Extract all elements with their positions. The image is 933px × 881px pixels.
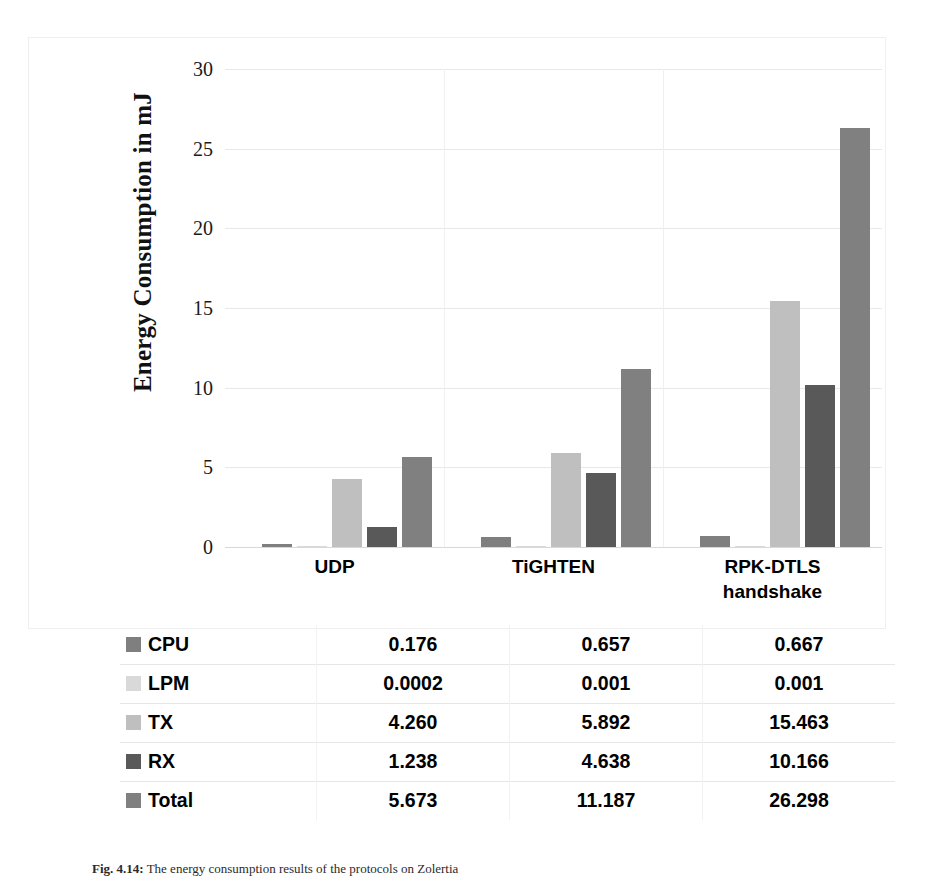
table-cell-tx-tighten: 5.892 <box>510 703 703 742</box>
y-tick-label-20: 20 <box>193 217 213 240</box>
table-cell-tx-udp: 4.260 <box>317 703 510 742</box>
x-axis-label-line: TiGHTEN <box>444 554 663 579</box>
table-row: Total5.67311.18726.298 <box>120 781 895 820</box>
chart-frame: Energy Consumption in mJ 051015202530 UD… <box>28 37 886 629</box>
bar-group-tighten <box>481 69 651 547</box>
gridline-0 <box>225 547 882 548</box>
legend-label: RX <box>148 750 175 772</box>
bar-total-tighten <box>621 369 651 547</box>
table-row: RX1.2384.63810.166 <box>120 742 895 781</box>
category-separator-1 <box>444 69 445 547</box>
x-axis-label-line: handshake <box>663 579 882 604</box>
legend-swatch-rx-icon <box>126 754 141 769</box>
table-row: LPM0.00020.0010.001 <box>120 664 895 703</box>
table-cell-cpu-tighten: 0.657 <box>510 625 703 664</box>
bar-rx-rpk-dtls-handshake <box>805 385 835 547</box>
table-cell-rx-udp: 1.238 <box>317 742 510 781</box>
bar-cpu-rpk-dtls-handshake <box>700 536 730 547</box>
legend-label: CPU <box>148 633 189 655</box>
bar-group-udp <box>262 69 432 547</box>
table-row: CPU0.1760.6570.667 <box>120 625 895 664</box>
data-table: CPU0.1760.6570.667LPM0.00020.0010.001TX4… <box>120 625 895 820</box>
table-cell-total-rpk-dtls-handshake: 26.298 <box>703 781 896 820</box>
bar-total-udp <box>402 457 432 547</box>
table-cell-lpm-tighten: 0.001 <box>510 664 703 703</box>
x-axis-label-line: UDP <box>225 554 444 579</box>
x-axis-label-line: RPK-DTLS <box>663 554 882 579</box>
x-axis-category-labels: UDPTiGHTENRPK-DTLShandshake <box>225 554 882 620</box>
legend-item-lpm: LPM <box>120 664 317 703</box>
bar-rx-tighten <box>586 473 616 547</box>
bar-total-rpk-dtls-handshake <box>840 128 870 547</box>
bar-lpm-tighten <box>516 546 546 547</box>
bar-group-rpk-dtls-handshake <box>700 69 870 547</box>
table-cell-cpu-udp: 0.176 <box>317 625 510 664</box>
caption-text: The energy consumption results of the pr… <box>147 861 459 876</box>
data-table-body: CPU0.1760.6570.667LPM0.00020.0010.001TX4… <box>120 625 895 820</box>
category-separator-2 <box>663 69 664 547</box>
legend-item-tx: TX <box>120 703 317 742</box>
figure-container: Energy Consumption in mJ 051015202530 UD… <box>0 0 933 881</box>
x-axis-label-rpk-dtls-handshake: RPK-DTLShandshake <box>663 554 882 604</box>
bar-cpu-tighten <box>481 537 511 547</box>
legend-swatch-tx-icon <box>126 715 141 730</box>
y-tick-label-10: 10 <box>193 376 213 399</box>
table-cell-total-udp: 5.673 <box>317 781 510 820</box>
y-tick-label-25: 25 <box>193 137 213 160</box>
x-axis-label-udp: UDP <box>225 554 444 579</box>
table-cell-rx-rpk-dtls-handshake: 10.166 <box>703 742 896 781</box>
y-tick-label-0: 0 <box>203 536 213 559</box>
table-cell-lpm-udp: 0.0002 <box>317 664 510 703</box>
legend-swatch-lpm-icon <box>126 676 141 691</box>
table-cell-cpu-rpk-dtls-handshake: 0.667 <box>703 625 896 664</box>
legend-label: TX <box>148 711 173 733</box>
table-cell-rx-tighten: 4.638 <box>510 742 703 781</box>
y-tick-label-30: 30 <box>193 58 213 81</box>
bar-lpm-udp <box>297 546 327 547</box>
legend-swatch-total-icon <box>126 793 141 808</box>
legend-item-rx: RX <box>120 742 317 781</box>
bar-cpu-udp <box>262 544 292 547</box>
table-cell-total-tighten: 11.187 <box>510 781 703 820</box>
legend-label: Total <box>148 789 193 811</box>
y-tick-label-15: 15 <box>193 297 213 320</box>
bar-rx-udp <box>367 527 397 547</box>
table-row: TX4.2605.89215.463 <box>120 703 895 742</box>
y-tick-label-5: 5 <box>203 456 213 479</box>
table-cell-tx-rpk-dtls-handshake: 15.463 <box>703 703 896 742</box>
legend-item-total: Total <box>120 781 317 820</box>
table-cell-lpm-rpk-dtls-handshake: 0.001 <box>703 664 896 703</box>
legend-item-cpu: CPU <box>120 625 317 664</box>
legend-swatch-cpu-icon <box>126 637 141 652</box>
bar-tx-tighten <box>551 453 581 547</box>
bar-lpm-rpk-dtls-handshake <box>735 546 765 547</box>
figure-caption: Fig. 4.14: The energy consumption result… <box>92 860 892 877</box>
bar-tx-udp <box>332 479 362 547</box>
bar-tx-rpk-dtls-handshake <box>770 301 800 547</box>
x-axis-label-tighten: TiGHTEN <box>444 554 663 579</box>
y-axis-title: Energy Consumption in mJ <box>129 52 157 432</box>
plot-area: 051015202530 <box>225 69 882 547</box>
caption-number: Fig. 4.14: <box>92 861 144 876</box>
legend-label: LPM <box>148 672 189 694</box>
